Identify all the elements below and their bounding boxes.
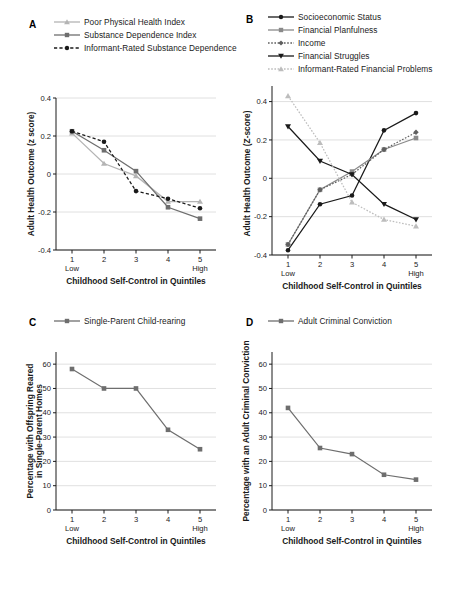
legend-item: Financial Struggles — [268, 50, 433, 62]
legend-item-label: Financial Struggles — [298, 51, 370, 61]
svg-text:60: 60 — [259, 360, 267, 369]
panel-d-legend: Adult Criminal Conviction — [268, 315, 392, 328]
svg-text:0: 0 — [47, 170, 51, 179]
legend-item-label: Informant-Rated Substance Dependence — [84, 43, 237, 53]
svg-text:3: 3 — [134, 515, 138, 524]
svg-text:5: 5 — [414, 260, 418, 269]
svg-text:1: 1 — [70, 515, 74, 524]
svg-text:30: 30 — [259, 433, 267, 442]
svg-text:3: 3 — [350, 515, 354, 524]
svg-text:5: 5 — [198, 255, 202, 264]
svg-text:4: 4 — [382, 515, 386, 524]
legend-item: Informant-Rated Financial Problems — [268, 63, 433, 75]
svg-text:-0.2: -0.2 — [38, 208, 51, 217]
svg-text:1: 1 — [70, 255, 74, 264]
square-marker-icon — [268, 315, 294, 327]
svg-text:3: 3 — [134, 255, 138, 264]
svg-text:50: 50 — [43, 384, 51, 393]
svg-text:3: 3 — [350, 260, 354, 269]
triangle-marker-icon — [268, 63, 294, 75]
svg-text:Percentage with an Adult Crimi: Percentage with an Adult Criminal Convic… — [241, 340, 251, 521]
svg-text:0.4: 0.4 — [40, 94, 51, 103]
svg-text:2: 2 — [318, 260, 322, 269]
svg-text:0.2: 0.2 — [256, 136, 267, 145]
svg-text:50: 50 — [259, 384, 267, 393]
legend-item: Substance Dependence Index — [54, 29, 237, 41]
panel-b-legend: Socioeconomic Status Financial Planfulne… — [268, 11, 433, 76]
legend-item: Poor Physical Health Index — [54, 16, 237, 28]
legend-item-label: Socioeconomic Status — [298, 12, 381, 22]
svg-text:2: 2 — [318, 515, 322, 524]
square-marker-icon — [268, 24, 294, 36]
square-marker-icon — [54, 315, 80, 327]
diamond-marker-icon — [268, 37, 294, 49]
svg-text:10: 10 — [43, 481, 51, 490]
svg-text:Adult Health Outcome (z score): Adult Health Outcome (z score) — [26, 111, 36, 236]
svg-text:Childhood Self-Control in Quin: Childhood Self-Control in Quintiles — [66, 276, 206, 286]
svg-text:Childhood Self-Control in Quin: Childhood Self-Control in Quintiles — [282, 281, 422, 291]
svg-text:-0.2: -0.2 — [254, 212, 267, 221]
svg-text:-0.4: -0.4 — [38, 246, 51, 255]
svg-text:-0.4: -0.4 — [254, 251, 267, 260]
square-marker-icon — [54, 29, 80, 41]
panel-c-letter: C — [29, 317, 36, 328]
svg-text:4: 4 — [382, 260, 386, 269]
svg-text:Low: Low — [65, 264, 79, 273]
svg-text:5: 5 — [198, 515, 202, 524]
circle-marker-icon — [268, 11, 294, 23]
svg-text:0: 0 — [263, 174, 267, 183]
legend-item: Income — [268, 37, 433, 49]
svg-text:High: High — [192, 524, 208, 533]
svg-text:4: 4 — [166, 515, 170, 524]
panel-d-letter: D — [246, 317, 253, 328]
legend-item-label: Financial Planfulness — [298, 25, 377, 35]
svg-text:Childhood Self-Control in Quin: Childhood Self-Control in Quintiles — [66, 536, 206, 546]
svg-text:Low: Low — [65, 524, 79, 533]
svg-text:1: 1 — [286, 260, 290, 269]
triangle-marker-icon — [54, 16, 80, 28]
legend-item-label: Informant-Rated Financial Problems — [298, 64, 433, 74]
svg-text:20: 20 — [43, 457, 51, 466]
svg-text:0.4: 0.4 — [256, 97, 267, 106]
svg-text:0.2: 0.2 — [40, 132, 51, 141]
svg-text:40: 40 — [259, 408, 267, 417]
svg-text:1: 1 — [286, 515, 290, 524]
svg-text:30: 30 — [43, 433, 51, 442]
legend-item-label: Poor Physical Health Index — [84, 17, 185, 27]
triangle-down-marker-icon — [268, 50, 294, 62]
svg-text:20: 20 — [259, 457, 267, 466]
svg-text:2: 2 — [102, 515, 106, 524]
figure-caption — [62, 574, 434, 583]
svg-text:4: 4 — [166, 255, 170, 264]
svg-text:in Single-Parent Homes: in Single-Parent Homes — [34, 384, 44, 478]
svg-text:Childhood Self-Control in Quin: Childhood Self-Control in Quintiles — [282, 536, 422, 546]
legend-item-label: Income — [298, 38, 326, 48]
svg-text:High: High — [408, 269, 424, 278]
legend-item: Financial Planfulness — [268, 24, 433, 36]
svg-text:High: High — [192, 264, 208, 273]
circle-marker-icon — [54, 42, 80, 54]
svg-text:Low: Low — [281, 269, 295, 278]
legend-item: Single-Parent Child-rearing — [54, 315, 185, 327]
svg-text:2: 2 — [102, 255, 106, 264]
svg-text:0: 0 — [47, 506, 51, 515]
svg-text:10: 10 — [259, 481, 267, 490]
panel-b-letter: B — [246, 14, 253, 25]
legend-item-label: Substance Dependence Index — [84, 30, 196, 40]
panel-c-legend: Single-Parent Child-rearing — [54, 315, 185, 328]
svg-text:Low: Low — [281, 524, 295, 533]
legend-item-label: Single-Parent Child-rearing — [84, 316, 185, 326]
svg-text:0: 0 — [263, 506, 267, 515]
svg-text:60: 60 — [43, 360, 51, 369]
svg-text:High: High — [408, 524, 424, 533]
svg-text:Percentage with Offspring Rear: Percentage with Offspring Reared — [25, 364, 35, 499]
legend-item: Socioeconomic Status — [268, 11, 433, 23]
panel-a-letter: A — [29, 19, 36, 30]
legend-item-label: Adult Criminal Conviction — [298, 316, 392, 326]
svg-text:5: 5 — [414, 515, 418, 524]
legend-item: Informant-Rated Substance Dependence — [54, 42, 237, 54]
svg-text:Adult Health Outcome (Z-score): Adult Health Outcome (Z-score) — [242, 110, 252, 236]
svg-text:40: 40 — [43, 408, 51, 417]
legend-item: Adult Criminal Conviction — [268, 315, 392, 327]
panel-a-legend: Poor Physical Health Index Substance Dep… — [54, 16, 237, 55]
